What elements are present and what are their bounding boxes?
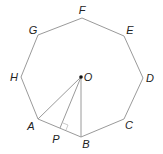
- label-C: C: [125, 119, 133, 131]
- right-angle-marker: [63, 123, 68, 130]
- segment-OA: [38, 77, 81, 119]
- label-G: G: [29, 24, 38, 36]
- label-E: E: [126, 24, 134, 36]
- label-H: H: [10, 71, 18, 83]
- center-point: [79, 75, 83, 79]
- label-O: O: [84, 71, 93, 83]
- label-D: D: [146, 72, 154, 84]
- label-B: B: [82, 138, 89, 150]
- label-A: A: [26, 120, 34, 132]
- label-F: F: [79, 4, 87, 16]
- octagon-diagram: F E D C B A H G O P: [0, 0, 163, 154]
- segment-OP: [60, 77, 81, 128]
- label-P: P: [52, 133, 60, 145]
